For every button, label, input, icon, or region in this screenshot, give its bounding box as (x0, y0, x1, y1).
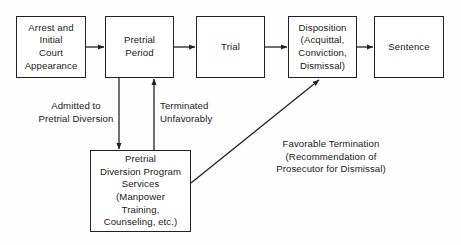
edge-label-terminated-unfavorably: Terminated Unfavorably (160, 100, 255, 125)
node-pretrial-diversion-program-services: Pretrial Diversion Program Services (Man… (90, 150, 191, 232)
flowchart-diagram: Arrest and Initial Court Appearance Pret… (0, 0, 461, 245)
node-diversion-label: Pretrial Diversion Program Services (Man… (98, 153, 183, 229)
node-arrest-label: Arrest and Initial Court Appearance (23, 22, 80, 72)
node-disposition-label: Disposition (Acquittal, Conviction, Dism… (296, 22, 349, 72)
node-disposition: Disposition (Acquittal, Conviction, Dism… (288, 16, 357, 78)
edge-label-favorable-termination: Favorable Termination (Recommendation of… (252, 138, 410, 176)
node-pretrial-period-label: Pretrial Period (122, 34, 157, 59)
node-trial: Trial (196, 16, 265, 78)
node-arrest-initial-court-appearance: Arrest and Initial Court Appearance (16, 16, 86, 78)
node-pretrial-period: Pretrial Period (105, 16, 174, 78)
edge-label-admitted-to-pretrial-diversion: Admitted to Pretrial Diversion (26, 100, 126, 125)
node-sentence: Sentence (374, 16, 444, 78)
node-trial-label: Trial (219, 41, 242, 54)
node-sentence-label: Sentence (386, 41, 431, 54)
